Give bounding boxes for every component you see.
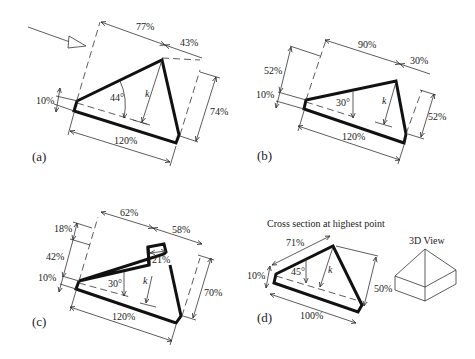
k-label-b: k (382, 95, 387, 106)
dim-right-a: 74% (210, 106, 228, 117)
panel-a: k 44° 77% 43% 74% 10% 120% (a) (28, 21, 228, 166)
panel-c: 21% k 30° 62% 58% 70% 18% 42% 10% 120% (… (32, 207, 222, 345)
dim-bottom-d: 100% (300, 310, 323, 321)
dim-bottom-c: 120% (112, 311, 135, 322)
dim-left-upper-b: 52% (264, 65, 282, 76)
dim-bottom-a: 120% (114, 135, 137, 146)
dim-left-c: 10% (38, 272, 56, 283)
figure-canvas: k 44° 77% 43% 74% 10% 120% (a) k 30° (0, 0, 475, 359)
panel-d: Cross section at highest point k 45° 71%… (247, 218, 456, 325)
dim-notch-c: 21% (152, 254, 170, 265)
dim-left-top-c: 18% (54, 223, 72, 234)
dim-right-c: 70% (204, 287, 222, 298)
dim-top-left-a: 77% (136, 21, 154, 32)
panel-label-a: (a) (32, 149, 46, 164)
dim-top-d: 71% (286, 237, 304, 248)
dim-top-right-a: 43% (180, 37, 198, 48)
angle-label-c: 30° (108, 278, 122, 289)
dim-left-mid-c: 42% (46, 251, 64, 262)
dim-top-right-c: 58% (172, 224, 190, 235)
dim-right-d: 50% (374, 283, 392, 294)
inset-title-3d: 3D View (409, 235, 445, 246)
k-label-d: k (328, 264, 333, 275)
dim-top-right-b: 30% (410, 55, 428, 66)
dim-top-left-b: 90% (358, 39, 376, 50)
dim-bottom-b: 120% (342, 131, 365, 142)
angle-label-d: 45° (291, 266, 305, 277)
dim-left-a: 10% (36, 95, 54, 106)
panel-label-d: (d) (257, 310, 272, 325)
pyramid-3d-icon (395, 249, 456, 301)
flow-arrow-icon (28, 27, 86, 48)
angle-label-b: 30° (336, 97, 350, 108)
k-label-a: k (145, 88, 150, 99)
angle-label-a: 44° (110, 92, 124, 103)
cross-section-a (74, 60, 179, 143)
panel-b: k 30° 90% 30% 52% 52% 10% 120% (b) (256, 39, 446, 164)
dim-left-d: 10% (247, 270, 265, 281)
dim-right-b: 52% (428, 111, 446, 122)
dim-left-b: 10% (256, 89, 274, 100)
k-label-c: k (143, 275, 148, 286)
dim-top-left-c: 62% (120, 207, 138, 218)
panel-label-b: (b) (257, 148, 272, 163)
panel-label-c: (c) (32, 314, 46, 329)
panel-title-d: Cross section at highest point (267, 218, 385, 229)
